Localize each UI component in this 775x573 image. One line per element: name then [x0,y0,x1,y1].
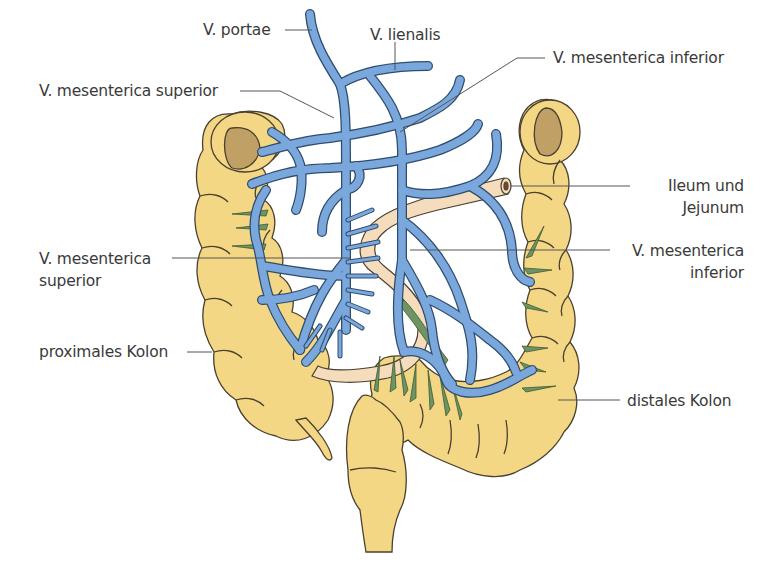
label-v-mesenterica-superior-mid: V. mesenterica superior [39,248,151,292]
label-v-mesenterica-inferior-mid-line1: V. mesenterica [620,240,744,262]
label-v-portae: V. portae [203,19,270,41]
label-v-mesenterica-superior-mid-line2: superior [39,270,151,292]
label-distales-kolon: distales Kolon [627,390,731,412]
label-v-mesenterica-inferior-mid-line2: inferior [620,262,744,284]
label-v-mesenterica-superior-mid-line1: V. mesenterica [39,248,151,270]
portal-venous-system [252,14,532,393]
label-v-mesenterica-inferior-mid: V. mesenterica inferior [620,240,744,284]
rectum [347,395,407,552]
label-v-mesenterica-inferior-top: V. mesenterica inferior [553,47,724,69]
label-v-lienalis: V. lienalis [370,24,440,46]
anatomy-diagram: V. portae V. lienalis V. mesenterica sup… [0,0,775,573]
label-ileum-jejunum: Ileum und Jejunum [640,175,744,219]
label-proximales-kolon: proximales Kolon [39,341,168,363]
label-ileum-jejunum-line2: Jejunum [640,197,744,219]
label-ileum-jejunum-line1: Ileum und [640,175,744,197]
label-v-mesenterica-superior-top: V. mesenterica superior [39,80,218,102]
